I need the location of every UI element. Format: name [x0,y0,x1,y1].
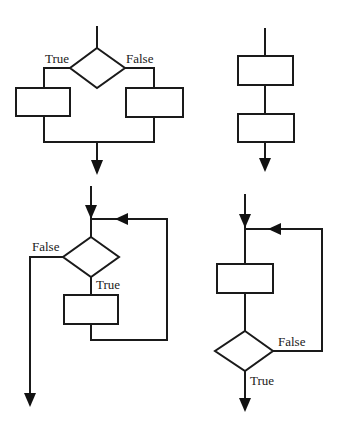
while-true-label: True [96,277,120,292]
selection-exit-arrowhead [91,160,103,175]
do-while-entry-arrowhead [239,214,251,228]
while-loop-back-arrowhead [115,213,128,225]
sequence-structure [238,28,294,172]
while-false-label: False [32,239,60,254]
while-exit-arrowhead [24,393,36,407]
sequence-exit-arrowhead [259,158,271,172]
while-loop-structure: False True [24,186,167,407]
while-entry-arrowhead [85,205,97,219]
do-while-loop-back-arrowhead [268,223,281,235]
selection-false-branch-line [125,68,154,88]
selection-true-label: True [45,51,69,66]
selection-merge-line [44,116,154,142]
selection-structure: True False [16,26,183,175]
do-while-exit-arrowhead [239,398,251,412]
selection-decision-diamond [70,48,125,88]
selection-true-branch-line [44,68,70,88]
do-while-true-label: True [250,373,274,388]
while-false-exit-line [30,257,63,395]
do-while-body-process-box [217,264,273,293]
selection-false-process-box [126,88,183,117]
do-while-decision-diamond [215,331,273,371]
selection-false-label: False [126,51,154,66]
sequence-process-box-1 [238,56,293,85]
while-decision-diamond [63,237,119,277]
sequence-process-box-2 [238,114,294,142]
selection-true-process-box [16,88,70,116]
while-body-process-box [64,295,118,324]
do-while-loop-structure: False True [215,194,322,412]
do-while-false-label: False [278,334,306,349]
flowchart-diagram: True False False True False Tr [0,0,341,438]
